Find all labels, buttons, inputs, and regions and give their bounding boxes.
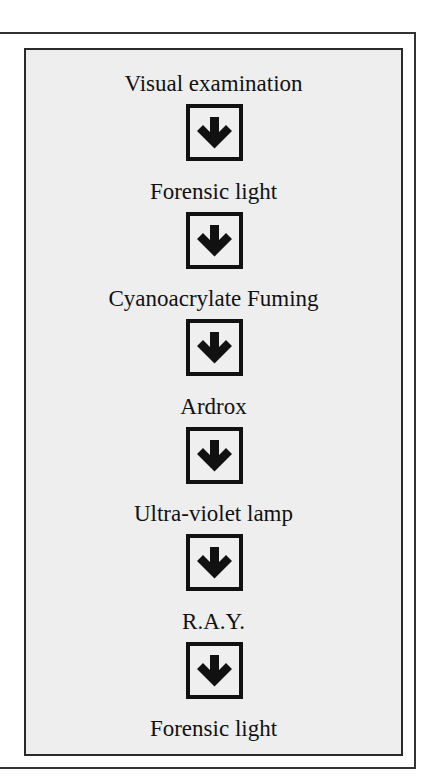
arrow-connector	[186, 427, 243, 484]
flow-step-label: R.A.Y.	[26, 608, 401, 636]
flowchart: Visual examinationForensic lightCyanoacr…	[26, 50, 401, 754]
down-arrow-icon	[190, 646, 239, 695]
arrow-connector	[186, 212, 243, 269]
down-arrow-icon	[190, 323, 239, 372]
flow-step-label: Ardrox	[26, 393, 401, 421]
arrow-connector	[186, 104, 243, 161]
down-arrow-icon	[190, 431, 239, 480]
arrow-connector	[186, 642, 243, 699]
flow-step-label: Cyanoacrylate Fuming	[26, 285, 401, 313]
down-arrow-icon	[190, 108, 239, 157]
flowchart-panel: Visual examinationForensic lightCyanoacr…	[24, 48, 403, 756]
arrow-connector	[186, 319, 243, 376]
flow-step-label: Ultra-violet lamp	[26, 500, 401, 528]
down-arrow-icon	[190, 216, 239, 265]
flow-step-label: Visual examination	[26, 70, 401, 98]
down-arrow-icon	[190, 538, 239, 587]
flow-step-label: Forensic light	[26, 178, 401, 206]
flow-step-label: Forensic light	[26, 715, 401, 743]
arrow-connector	[186, 534, 243, 591]
